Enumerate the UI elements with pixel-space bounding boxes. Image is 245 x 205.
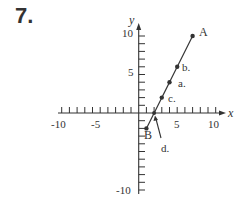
y-tick-label: 5 <box>128 66 134 78</box>
x-tick-label: 5 <box>174 118 180 130</box>
label-a-endpoint: A <box>199 25 208 39</box>
point-a-dot <box>167 80 171 84</box>
y-tick-label: 10 <box>122 27 134 39</box>
label-d: d. <box>161 142 170 154</box>
label-b-endpoint: B <box>144 128 152 142</box>
x-axis-arrow-icon <box>219 111 226 116</box>
point-d <box>152 111 156 115</box>
pointer-d <box>156 119 161 138</box>
arrow-icon <box>154 116 159 122</box>
label-a: a. <box>178 77 186 89</box>
label-b: b. <box>182 61 191 73</box>
y-axis-label: y <box>128 13 135 27</box>
x-axis-label: x <box>227 106 234 120</box>
y-tick-label: -10 <box>116 184 131 196</box>
coordinate-plane: x y -10 -5 5 10 10 5 -10 A b. a. c. d. B <box>0 0 245 205</box>
point-a <box>190 34 194 38</box>
x-tick-label: 10 <box>208 118 220 130</box>
point-b <box>175 65 179 69</box>
point-c <box>160 95 164 99</box>
label-c: c. <box>168 92 176 104</box>
y-axis-arrow-icon <box>136 23 141 30</box>
x-tick-label: -10 <box>51 118 66 130</box>
points <box>144 34 195 131</box>
x-tick-label: -5 <box>91 118 101 130</box>
